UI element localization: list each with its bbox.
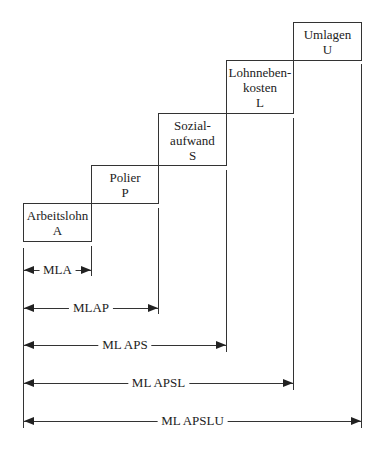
dimension-label: MLAP: [69, 301, 113, 315]
extension-line-p: [158, 208, 159, 314]
extension-line-a: [91, 246, 92, 276]
arrowhead-right-icon: [283, 379, 293, 387]
arrowhead-right-icon: [351, 417, 361, 425]
dimension-mla: MLA: [24, 263, 91, 277]
box-label: Umlagen: [294, 27, 361, 42]
arrowhead-right-icon: [148, 304, 158, 312]
arrowhead-left-icon: [24, 417, 34, 425]
dimension-ml-aps: ML APS: [24, 338, 226, 352]
arrowhead-left-icon: [24, 266, 34, 274]
box-symbol: U: [294, 42, 361, 57]
dimension-ml-apslu: ML APSLU: [24, 414, 361, 428]
extension-line-s: [226, 170, 227, 352]
box-sozialaufwand: Sozial- aufwand S: [158, 113, 227, 166]
box-polier: Polier P: [91, 165, 159, 204]
box-label: aufwand: [159, 132, 226, 147]
arrowhead-left-icon: [24, 341, 34, 349]
box-lohnnebenkosten: Lohnneben- kosten L: [226, 60, 294, 114]
extension-line-u: [361, 64, 362, 428]
box-label: Polier: [92, 170, 158, 185]
box-symbol: S: [159, 147, 226, 162]
box-label: Arbeitslohn: [24, 208, 91, 223]
dimension-mlap: MLAP: [24, 301, 158, 315]
arrowhead-right-icon: [216, 341, 226, 349]
box-symbol: A: [24, 223, 91, 238]
dimension-label: ML APS: [98, 338, 151, 352]
box-label: kosten: [227, 80, 293, 95]
box-label: Sozial-: [159, 117, 226, 132]
arrowhead-left-icon: [24, 304, 34, 312]
box-label: Lohnneben-: [227, 65, 293, 80]
arrowhead-right-icon: [81, 266, 91, 274]
box-umlagen: Umlagen U: [293, 22, 362, 61]
box-symbol: P: [92, 185, 158, 200]
arrowhead-left-icon: [24, 379, 34, 387]
dimension-label: ML APSL: [128, 376, 189, 390]
box-symbol: L: [227, 95, 293, 110]
dimension-label: MLA: [39, 263, 76, 277]
dimension-ml-apsl: ML APSL: [24, 376, 293, 390]
box-arbeitslohn: Arbeitslohn A: [23, 203, 92, 242]
extension-line-l: [293, 118, 294, 390]
dimension-label: ML APSLU: [157, 414, 228, 428]
